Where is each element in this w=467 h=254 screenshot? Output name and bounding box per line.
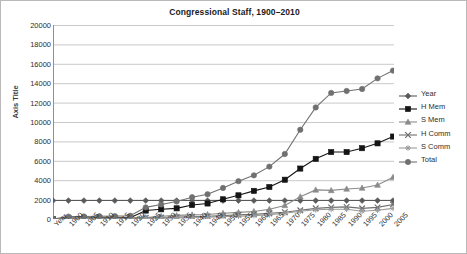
x-axis-tick-label: 1980 [315, 211, 333, 229]
x-axis-tick-label: 2000 [377, 211, 395, 229]
x-axis-tick-label: 1945 [207, 211, 225, 229]
asterisk-icon [398, 140, 418, 152]
x-axis-tick-label: 1910 [98, 211, 116, 229]
legend-item-total[interactable]: Total [398, 153, 466, 166]
x-axis-tick-label: 1975 [299, 211, 317, 229]
legend-item-h-comm[interactable]: H Comm [398, 127, 466, 140]
x-axis-tick-label: 1985 [330, 211, 348, 229]
square-icon [398, 101, 418, 113]
x-axis-tick-label: 1960 [253, 211, 271, 229]
x-axis-tick-label: 1925 [145, 211, 163, 229]
x-axis-tick-label: 1905 [83, 211, 101, 229]
chart-container: Congressional Staff, 1900–2010 Axis Titl… [0, 0, 467, 254]
x-icon [398, 127, 418, 139]
data-point [405, 159, 410, 164]
legend-item-s-comm[interactable]: S Comm [398, 140, 466, 153]
circle-icon [398, 154, 418, 166]
x-axis-tick-label: 1990 [346, 211, 364, 229]
legend-item-label: Total [421, 155, 437, 164]
data-point [405, 106, 410, 111]
triangle-icon [398, 114, 418, 126]
legend-item-s-mem[interactable]: S Mem [398, 113, 466, 126]
x-axis-tick-label: 1920 [129, 211, 147, 229]
chart-legend: YearH MemS MemH CommS CommTotal [398, 87, 466, 166]
x-axis-tick-label: 1935 [176, 211, 194, 229]
x-axis-tick-label: 1965 [268, 211, 286, 229]
data-point [405, 93, 411, 99]
diamond-icon [398, 88, 418, 100]
x-axis-tick-label: 1955 [237, 211, 255, 229]
x-axis-tick-label: 1950 [222, 211, 240, 229]
legend-item-label: Year [421, 89, 436, 98]
legend-item-label: S Comm [421, 142, 450, 151]
legend-item-year[interactable]: Year [398, 87, 466, 100]
x-axis-tick-label: 1900 [67, 211, 85, 229]
x-axis-tick-label: Year [52, 212, 69, 229]
x-axis-tick-label: 1930 [160, 211, 178, 229]
legend-item-label: H Mem [421, 102, 445, 111]
x-axis-tick-label: 1915 [114, 211, 132, 229]
x-axis-tick-label: 1940 [191, 211, 209, 229]
legend-item-h-mem[interactable]: H Mem [398, 100, 466, 113]
legend-item-label: H Comm [421, 129, 451, 138]
x-axis-tick-label: 1995 [361, 211, 379, 229]
data-point [405, 146, 411, 152]
x-axis-tick-label: 2005 [392, 211, 410, 229]
x-axis-tick-label: 1970 [284, 211, 302, 229]
legend-item-label: S Mem [421, 115, 445, 124]
